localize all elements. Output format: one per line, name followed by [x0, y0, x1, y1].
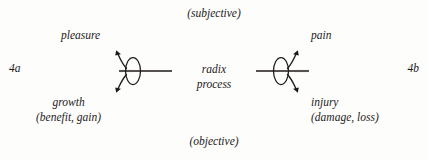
- label-process: process: [0, 77, 428, 92]
- axis-label-objective: (objective): [0, 135, 428, 149]
- label-injury-parenthetical: (damage, loss): [311, 110, 379, 125]
- label-pleasure: pleasure: [61, 29, 100, 43]
- label-pain: pain: [311, 29, 331, 43]
- label-growth-block: growth (benefit, gain): [36, 95, 101, 124]
- label-radix: radix: [0, 62, 428, 77]
- label-growth: growth: [36, 95, 101, 110]
- radix-process-diagram: (subjective) (objective) 4a 4b pleasure …: [0, 0, 428, 160]
- axis-label-subjective: (subjective): [0, 7, 428, 21]
- label-injury: injury: [311, 95, 379, 110]
- label-growth-parenthetical: (benefit, gain): [36, 110, 101, 125]
- label-injury-block: injury (damage, loss): [311, 95, 379, 124]
- label-radix-process-block: radix process: [0, 62, 428, 91]
